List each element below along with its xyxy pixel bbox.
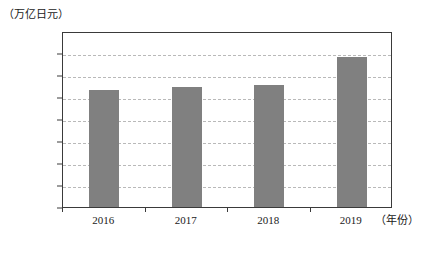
x-tick-label: 2016 <box>92 214 114 227</box>
x-tick-mark <box>145 207 146 212</box>
x-tick-label: 2019 <box>340 214 362 227</box>
x-tick-mark <box>62 207 63 212</box>
x-axis: 2016201720182019 <box>0 0 424 262</box>
x-tick-mark <box>310 207 311 212</box>
bar-chart-figure: （万亿日元） 02004006008001 0001 2001 4001 600… <box>0 0 424 262</box>
x-axis-unit-label: （年份） <box>375 214 419 227</box>
x-tick-label: 2017 <box>175 214 197 227</box>
x-tick-label: 2018 <box>257 214 279 227</box>
x-tick-mark <box>227 207 228 212</box>
